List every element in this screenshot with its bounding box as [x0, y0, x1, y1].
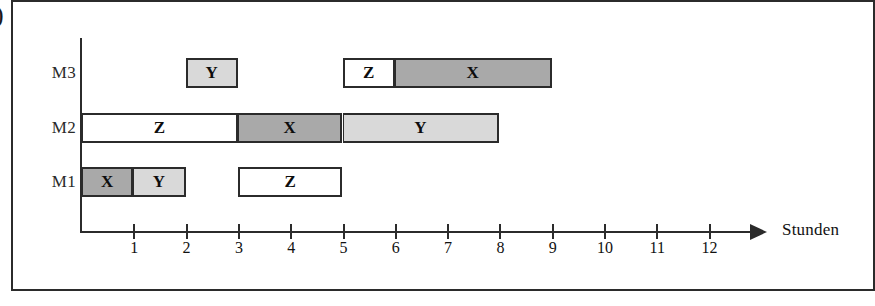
gantt-chart: M3M2M1 YZXZXYXYZ Stunden 123456789101112: [0, 0, 875, 306]
gantt-bar-label: X: [101, 172, 113, 192]
x-axis-tick-6: [395, 224, 397, 239]
gantt-bar-m2-x: X: [238, 113, 343, 143]
figure-root: ) M3M2M1 YZXZXYXYZ Stunden 1234567891011…: [0, 0, 875, 306]
x-axis-tick-label-11: 11: [642, 239, 672, 257]
gantt-bar-label: X: [284, 118, 296, 138]
gantt-bar-m1-z: Z: [238, 167, 343, 197]
gantt-bar-label: Y: [206, 63, 218, 83]
x-axis-tick-label-4: 4: [276, 239, 306, 257]
gantt-bar-label: Z: [363, 63, 374, 83]
gantt-bar-m1-x: X: [81, 167, 133, 197]
gantt-bar-label: Y: [414, 118, 426, 138]
x-axis-tick-7: [447, 224, 449, 239]
x-axis-title: Stunden: [782, 220, 839, 240]
row-label-m1: M1: [30, 172, 76, 192]
x-axis-tick-9: [552, 224, 554, 239]
x-axis-tick-label-6: 6: [381, 239, 411, 257]
x-axis-tick-label-10: 10: [590, 239, 620, 257]
x-axis-tick-label-9: 9: [538, 239, 568, 257]
x-axis-tick-label-5: 5: [329, 239, 359, 257]
x-axis-tick-2: [186, 224, 188, 239]
x-axis-tick-label-3: 3: [224, 239, 254, 257]
gantt-bar-m1-y: Y: [133, 167, 185, 197]
x-axis-tick-11: [656, 224, 658, 239]
x-axis-tick-12: [709, 224, 711, 239]
gantt-bar-label: X: [467, 63, 479, 83]
x-axis-arrow-icon: [750, 224, 767, 240]
x-axis-tick-label-12: 12: [695, 239, 725, 257]
gantt-bar-m3-y: Y: [186, 58, 238, 88]
x-axis-line: [80, 231, 752, 233]
gantt-bar-label: Z: [154, 118, 165, 138]
x-axis-tick-3: [238, 224, 240, 239]
gantt-bar-m3-z: Z: [343, 58, 395, 88]
x-axis-tick-label-2: 2: [172, 239, 202, 257]
x-axis-tick-label-8: 8: [485, 239, 515, 257]
gantt-bar-m2-z: Z: [81, 113, 238, 143]
row-label-m3: M3: [30, 63, 76, 83]
x-axis-tick-label-7: 7: [433, 239, 463, 257]
x-axis-tick-10: [604, 224, 606, 239]
x-axis-tick-1: [133, 224, 135, 239]
gantt-bar-m2-y: Y: [343, 113, 500, 143]
x-axis-tick-8: [499, 224, 501, 239]
gantt-bar-label: Y: [153, 172, 165, 192]
x-axis-tick-4: [290, 224, 292, 239]
row-label-m2: M2: [30, 118, 76, 138]
x-axis-tick-5: [343, 224, 345, 239]
x-axis-tick-label-1: 1: [119, 239, 149, 257]
gantt-bar-m3-x: X: [395, 58, 552, 88]
gantt-bar-label: Z: [285, 172, 296, 192]
